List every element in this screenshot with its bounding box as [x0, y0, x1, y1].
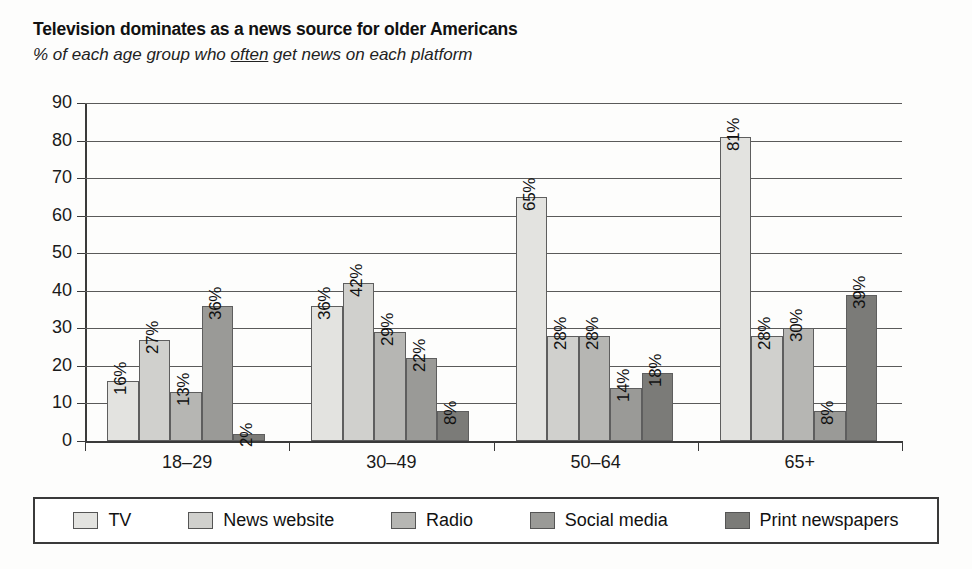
x-axis-tick — [902, 441, 903, 451]
y-axis-label: 40 — [32, 280, 72, 301]
y-axis-label: 90 — [32, 92, 72, 113]
chart-legend: TVNews websiteRadioSocial mediaPrint new… — [33, 497, 939, 544]
bar-value-label: 65% — [520, 178, 540, 211]
y-axis-label: 70 — [32, 167, 72, 188]
gridline — [85, 253, 902, 254]
bar — [139, 340, 171, 441]
bar — [720, 137, 752, 441]
chart-title: Television dominates as a news source fo… — [33, 19, 518, 40]
bar — [374, 332, 406, 441]
bar-value-label: 28% — [551, 317, 571, 350]
legend-swatch — [188, 512, 213, 529]
gridline — [85, 141, 902, 142]
bar — [547, 336, 579, 441]
x-axis-tick — [289, 441, 290, 451]
chart-subtitle-prefix: % of each age group who — [33, 45, 231, 64]
x-axis-label: 65+ — [698, 452, 902, 473]
legend-label: News website — [223, 510, 334, 531]
x-axis-tick — [698, 441, 699, 451]
legend-label: Radio — [426, 510, 473, 531]
gridline — [85, 216, 902, 217]
chart-figure: Television dominates as a news source fo… — [0, 0, 972, 569]
legend-item[interactable]: Social media — [530, 510, 668, 531]
y-axis-label: 50 — [32, 242, 72, 263]
bar — [783, 328, 815, 441]
chart-subtitle: % of each age group who often get news o… — [33, 45, 472, 65]
x-axis-label: 18–29 — [85, 452, 289, 473]
x-axis-tick — [494, 441, 495, 451]
bar-value-label: 8% — [818, 401, 838, 425]
bar-value-label: 28% — [583, 317, 603, 350]
bar-value-label: 30% — [787, 309, 807, 342]
bar-value-label: 39% — [850, 275, 870, 308]
chart-subtitle-suffix: get news on each platform — [268, 45, 472, 64]
legend-item[interactable]: TV — [73, 510, 131, 531]
bar-value-label: 18% — [646, 354, 666, 387]
bar-value-label: 27% — [143, 320, 163, 353]
legend-item[interactable]: News website — [188, 510, 334, 531]
bar-value-label: 28% — [755, 317, 775, 350]
bar-value-label: 42% — [347, 264, 367, 297]
bar — [579, 336, 611, 441]
y-axis-label: 80 — [32, 130, 72, 151]
y-axis-tick-labels: 0102030405060708090 — [20, 103, 72, 441]
bar — [343, 283, 375, 441]
legend-label: Social media — [565, 510, 668, 531]
legend-swatch — [530, 512, 555, 529]
y-axis-label: 20 — [32, 355, 72, 376]
bar — [751, 336, 783, 441]
legend-label: TV — [108, 510, 131, 531]
bar-value-label: 36% — [315, 287, 335, 320]
bar-value-label: 29% — [378, 313, 398, 346]
y-axis-label: 0 — [32, 430, 72, 451]
bar-value-label: 16% — [111, 362, 131, 395]
bar — [311, 306, 343, 441]
bar — [202, 306, 234, 441]
x-axis-tick — [85, 441, 86, 451]
bar — [846, 295, 878, 441]
bar-value-label: 14% — [614, 369, 634, 402]
bar-value-label: 2% — [237, 424, 257, 448]
legend-item[interactable]: Print newspapers — [725, 510, 899, 531]
legend-item[interactable]: Radio — [391, 510, 473, 531]
y-axis-label: 30 — [32, 317, 72, 338]
chart-subtitle-emphasis: often — [231, 45, 269, 64]
legend-label: Print newspapers — [760, 510, 899, 531]
x-axis-label: 30–49 — [289, 452, 493, 473]
bar-value-label: 22% — [410, 339, 430, 372]
x-axis-label: 50–64 — [494, 452, 698, 473]
gridline — [85, 103, 902, 104]
bar-value-label: 13% — [174, 373, 194, 406]
bar-value-label: 8% — [441, 401, 461, 425]
legend-swatch — [391, 512, 416, 529]
bar-value-label: 81% — [724, 118, 744, 151]
legend-swatch — [73, 512, 98, 529]
legend-swatch — [725, 512, 750, 529]
bar — [516, 197, 548, 441]
plot-area: 16%27%13%36%2%36%42%29%22%8%65%28%28%14%… — [85, 103, 902, 441]
y-axis-label: 10 — [32, 392, 72, 413]
gridline — [85, 178, 902, 179]
bar-value-label: 36% — [206, 287, 226, 320]
y-axis-label: 60 — [32, 205, 72, 226]
